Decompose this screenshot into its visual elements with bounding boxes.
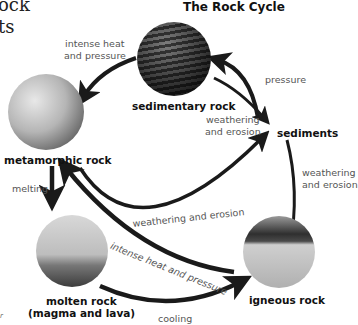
node-igneous-rock: igneous rock: [249, 294, 325, 306]
process-weathering-igneous-line2: and erosion: [302, 179, 358, 191]
process-weathering-sed-line1: weathering: [206, 114, 260, 126]
process-weathering-sed-line2: and erosion: [205, 126, 261, 138]
node-sedimentary-rock: sedimentary rock: [132, 100, 235, 112]
node-molten-rock-line2: (magma and lava): [28, 307, 135, 319]
process-intense-heat-line2: and pressure: [64, 50, 126, 62]
sedimentary-rock-photo: [137, 22, 211, 96]
process-melting: melting: [12, 183, 48, 195]
node-metamorphic-rock: metamorphic rock: [4, 154, 112, 166]
process-pressure: pressure: [265, 74, 306, 86]
molten-rock-photo: [36, 215, 108, 287]
metamorphic-rock-photo: [8, 74, 84, 150]
process-cooling: cooling: [158, 313, 192, 325]
node-sediments: sediments: [277, 127, 338, 139]
process-intense-heat-line1: intense heat: [65, 38, 124, 50]
process-weathering-igneous-line1: weathering: [302, 167, 356, 179]
igneous-rock-photo: [243, 216, 315, 288]
page-mark: r: [0, 312, 3, 320]
node-molten-rock-line1: molten rock: [46, 295, 117, 307]
